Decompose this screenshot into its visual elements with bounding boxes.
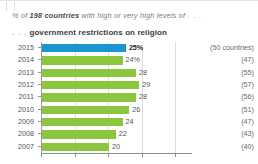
- bar: [42, 143, 109, 151]
- row-country-count: (57): [241, 80, 254, 91]
- chart-row: 201128(56): [0, 91, 258, 103]
- row-year-label: 2015: [0, 42, 34, 54]
- chart-row: 201229(57): [0, 79, 258, 91]
- bar-value-label: 25%: [129, 43, 143, 54]
- y-axis-tick: [38, 47, 41, 48]
- x-axis-tick: [108, 153, 109, 157]
- bar-value-label: 20: [112, 142, 120, 153]
- bar-value-label: 24: [126, 117, 134, 128]
- y-axis-tick: [38, 96, 41, 97]
- chart-row: 200822(43): [0, 128, 258, 140]
- row-country-count: (51): [241, 105, 254, 116]
- chart-row: 201026(51): [0, 104, 258, 116]
- row-year-label: 2012: [0, 79, 34, 91]
- row-country-count: (47): [241, 55, 254, 66]
- kicker-suffix: with high or very high levels of: [79, 11, 187, 20]
- row-country-count: (47): [241, 117, 254, 128]
- y-axis-tick: [38, 59, 41, 60]
- bar: [42, 44, 126, 52]
- bar: [42, 56, 123, 64]
- y-axis-tick: [38, 121, 41, 122]
- row-year-label: 2009: [0, 116, 34, 128]
- chart-row: 201424%(47): [0, 54, 258, 66]
- decorative-rule-left-secondary: [14, 2, 15, 11]
- chart-kicker: % of 198 countries with high or very hig…: [12, 11, 202, 20]
- row-country-count: (40): [241, 142, 254, 153]
- y-axis-tick: [38, 84, 41, 85]
- y-axis-tick: [38, 72, 41, 73]
- bar-value-label: 22: [119, 129, 127, 140]
- x-axis-line: [41, 153, 192, 154]
- kicker-ellipsis: . . .: [187, 11, 202, 20]
- x-axis-tick: [75, 153, 76, 157]
- chart-row: 201525%(50 countries): [0, 42, 258, 54]
- row-year-label: 2010: [0, 104, 34, 116]
- row-year-label: 2007: [0, 141, 34, 153]
- bar: [42, 130, 116, 138]
- x-axis-tick: [41, 153, 42, 157]
- chart-row: 200720(40): [0, 141, 258, 153]
- subhead-ellipsis: . . .: [12, 28, 27, 37]
- bar-chart: 201525%(50 countries)201424%(47)201328(5…: [0, 42, 258, 164]
- row-country-count: (50 countries): [210, 43, 254, 54]
- subhead-text: government restrictions on religion: [29, 28, 167, 37]
- bar: [42, 106, 129, 114]
- y-axis-tick: [38, 109, 41, 110]
- kicker-country-count: 198 countries: [30, 11, 80, 20]
- bar-value-label: 28: [139, 68, 147, 79]
- decorative-rule-left: [6, 2, 7, 11]
- chart-row: 201328(55): [0, 67, 258, 79]
- y-axis-tick: [38, 146, 41, 147]
- row-year-label: 2011: [0, 91, 34, 103]
- row-country-count: (55): [241, 68, 254, 79]
- row-country-count: (43): [241, 129, 254, 140]
- bar: [42, 118, 123, 126]
- y-axis-tick: [38, 133, 41, 134]
- chart-subhead: . . . government restrictions on religio…: [12, 28, 167, 37]
- x-axis-tick: [175, 153, 176, 157]
- bar: [42, 81, 139, 89]
- bar-value-label: 28: [139, 92, 147, 103]
- kicker-prefix: % of: [12, 11, 30, 20]
- bar-value-label: 29: [142, 80, 150, 91]
- bar-value-label: 24%: [126, 55, 140, 66]
- bar-value-label: 26: [132, 105, 140, 116]
- bar: [42, 69, 136, 77]
- bar: [42, 93, 136, 101]
- chart-page: % of 198 countries with high or very hig…: [0, 0, 258, 164]
- x-axis-tick: [142, 153, 143, 157]
- row-country-count: (56): [241, 92, 254, 103]
- chart-row: 200924(47): [0, 116, 258, 128]
- row-year-label: 2014: [0, 54, 34, 66]
- row-year-label: 2008: [0, 128, 34, 140]
- row-year-label: 2013: [0, 67, 34, 79]
